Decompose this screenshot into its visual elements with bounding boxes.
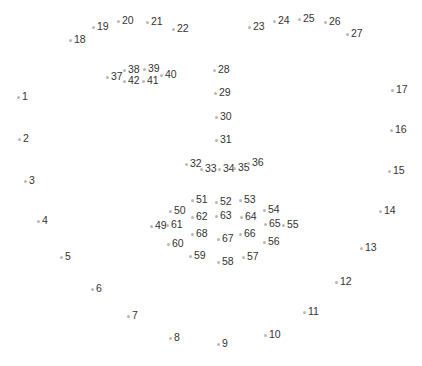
- landmark-dot-icon: [191, 216, 194, 219]
- landmark-dot-icon: [215, 201, 218, 204]
- landmark-dot-icon: [215, 139, 218, 142]
- landmark-dot-icon: [189, 255, 192, 258]
- landmark-label: 57: [247, 250, 259, 262]
- landmark-dot-icon: [92, 26, 95, 29]
- landmark-label: 5: [65, 250, 71, 262]
- landmark-dot-icon: [273, 20, 276, 23]
- landmark-dot-icon: [17, 96, 20, 99]
- landmark-label: 24: [278, 14, 290, 26]
- landmark-label: 14: [384, 204, 396, 216]
- landmark-dot-icon: [91, 288, 94, 291]
- landmark-dot-icon: [282, 224, 285, 227]
- landmark-label: 8: [174, 331, 180, 343]
- landmark-dot-icon: [263, 241, 266, 244]
- landmark-label: 39: [148, 62, 160, 74]
- landmark-label: 6: [96, 282, 102, 294]
- landmark-dot-icon: [37, 220, 40, 223]
- landmark-label: 65: [269, 217, 281, 229]
- landmark-dot-icon: [169, 337, 172, 340]
- landmark-dot-icon: [146, 21, 149, 24]
- landmark-dot-icon: [172, 28, 175, 31]
- landmark-dot-icon: [18, 138, 21, 141]
- landmark-label: 50: [174, 204, 186, 216]
- landmark-dot-icon: [298, 18, 301, 21]
- landmark-label: 33: [205, 162, 217, 174]
- landmark-dot-icon: [215, 215, 218, 218]
- landmark-dot-icon: [360, 247, 363, 250]
- landmark-label: 64: [245, 210, 257, 222]
- landmark-dot-icon: [388, 170, 391, 173]
- landmark-label: 18: [74, 33, 86, 45]
- landmark-dot-icon: [390, 129, 393, 132]
- landmark-dot-icon: [167, 243, 170, 246]
- landmark-dot-icon: [247, 162, 250, 165]
- landmark-label: 60: [172, 237, 184, 249]
- landmark-label: 62: [196, 210, 208, 222]
- landmark-dot-icon: [166, 224, 169, 227]
- landmark-label: 55: [287, 218, 299, 230]
- landmark-label: 25: [303, 12, 315, 24]
- landmark-label: 21: [151, 15, 163, 27]
- landmark-label: 22: [177, 22, 189, 34]
- landmark-dot-icon: [263, 209, 266, 212]
- landmark-diagram: 1234567891011121314151617181920212223242…: [0, 0, 422, 366]
- landmark-dot-icon: [142, 80, 145, 83]
- landmark-label: 66: [244, 227, 256, 239]
- landmark-label: 3: [29, 174, 35, 186]
- landmark-dot-icon: [123, 69, 126, 72]
- landmark-dot-icon: [335, 281, 338, 284]
- landmark-dot-icon: [217, 343, 220, 346]
- landmark-label: 20: [122, 14, 134, 26]
- landmark-label: 4: [42, 214, 48, 226]
- landmark-dot-icon: [242, 256, 245, 259]
- landmark-label: 27: [351, 27, 363, 39]
- landmark-label: 53: [244, 193, 256, 205]
- landmark-label: 9: [222, 337, 228, 349]
- landmark-label: 49: [155, 219, 167, 231]
- landmark-dot-icon: [346, 33, 349, 36]
- landmark-dot-icon: [264, 334, 267, 337]
- landmark-dot-icon: [303, 311, 306, 314]
- landmark-dot-icon: [191, 233, 194, 236]
- landmark-dot-icon: [215, 116, 218, 119]
- landmark-dot-icon: [185, 163, 188, 166]
- landmark-label: 37: [111, 70, 123, 82]
- landmark-label: 13: [365, 241, 377, 253]
- landmark-label: 23: [253, 20, 265, 32]
- landmark-dot-icon: [143, 68, 146, 71]
- landmark-label: 31: [220, 133, 232, 145]
- landmark-dot-icon: [117, 20, 120, 23]
- landmark-dot-icon: [106, 76, 109, 79]
- landmark-label: 11: [308, 305, 319, 317]
- landmark-label: 54: [268, 203, 280, 215]
- landmark-dot-icon: [264, 223, 267, 226]
- landmark-label: 19: [97, 20, 109, 32]
- landmark-label: 17: [396, 83, 408, 95]
- landmark-label: 30: [220, 110, 232, 122]
- landmark-label: 42: [128, 74, 140, 86]
- landmark-dot-icon: [123, 80, 126, 83]
- landmark-label: 1: [22, 90, 28, 102]
- landmark-label: 28: [218, 63, 230, 75]
- landmark-label: 2: [23, 132, 29, 144]
- landmark-dot-icon: [169, 210, 172, 213]
- landmark-dot-icon: [218, 168, 221, 171]
- landmark-label: 56: [268, 235, 280, 247]
- landmark-dot-icon: [160, 74, 163, 77]
- landmark-dot-icon: [239, 199, 242, 202]
- landmark-dot-icon: [239, 233, 242, 236]
- landmark-dot-icon: [248, 26, 251, 29]
- landmark-dot-icon: [191, 199, 194, 202]
- landmark-dot-icon: [213, 69, 216, 72]
- landmark-dot-icon: [217, 261, 220, 264]
- landmark-label: 40: [165, 68, 177, 80]
- landmark-dot-icon: [233, 167, 236, 170]
- landmark-label: 51: [196, 193, 208, 205]
- landmark-dot-icon: [200, 168, 203, 171]
- landmark-dot-icon: [391, 89, 394, 92]
- landmark-dot-icon: [214, 92, 217, 95]
- landmark-dot-icon: [60, 256, 63, 259]
- landmark-label: 68: [196, 227, 208, 239]
- landmark-label: 36: [252, 156, 264, 168]
- landmark-label: 16: [395, 123, 407, 135]
